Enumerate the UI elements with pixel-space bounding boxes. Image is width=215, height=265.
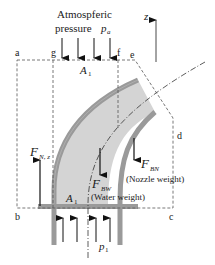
nozzle-control-volume-diagram: Atmospferic pressure p a z a g f e d b c…	[0, 0, 215, 265]
reaction-force-subscript: N, z	[38, 153, 50, 161]
water-weight-note: (Water weight)	[91, 192, 145, 202]
point-a: a	[15, 47, 20, 58]
area-top-subscript: 1	[88, 70, 92, 78]
point-d: d	[177, 130, 182, 141]
inlet-pressure-subscript: 1	[105, 246, 109, 254]
area-bottom-symbol: A	[65, 192, 73, 204]
point-g: g	[51, 47, 56, 58]
title-line2: pressure	[55, 22, 92, 34]
atmospheric-pressure-arrows	[62, 38, 110, 58]
inlet-pressure-symbol: p	[98, 240, 105, 252]
point-e: e	[130, 49, 135, 60]
water-weight-symbol: F	[91, 176, 101, 191]
area-bottom-subscript: 1	[74, 198, 78, 206]
z-axis-label: z	[143, 10, 149, 22]
reaction-force-symbol: F	[29, 144, 39, 159]
pressure-subscript: a	[107, 28, 111, 36]
nozzle-weight-subscript: BN	[150, 165, 159, 173]
point-f: f	[117, 47, 121, 58]
point-b: b	[15, 211, 20, 222]
title-line1: Atmospferic	[57, 8, 112, 20]
inlet-pressure-arrows	[63, 218, 110, 242]
area-top-symbol: A	[79, 64, 87, 76]
nozzle-weight-note: (Nozzle weight)	[126, 174, 184, 184]
point-c: c	[169, 211, 174, 222]
pressure-symbol: p	[100, 22, 107, 34]
nozzle-weight-symbol: F	[140, 156, 150, 171]
